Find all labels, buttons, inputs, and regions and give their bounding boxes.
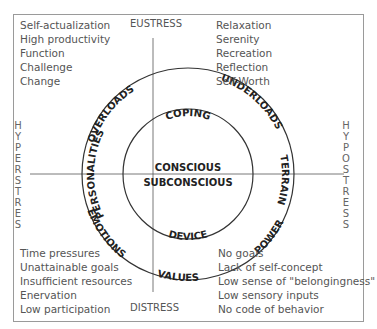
list-item: No goals bbox=[218, 246, 375, 260]
center-subconscious: SUBCONSCIOUS bbox=[143, 177, 232, 188]
list-item: Lack of self-concept bbox=[218, 260, 375, 274]
list-item: Reflection bbox=[216, 60, 272, 74]
axis-distress: DISTRESS bbox=[130, 302, 179, 313]
list-item: Self-Worth bbox=[216, 74, 272, 88]
list-bottom-right: No goals Lack of self-concept Low sense … bbox=[218, 246, 375, 316]
list-top-right: Relaxation Serenity Recreation Reflectio… bbox=[216, 18, 272, 88]
ring-coping: COPING bbox=[164, 107, 212, 122]
list-item: Function bbox=[20, 46, 110, 60]
list-item: Low sensory inputs bbox=[218, 288, 375, 302]
ring-terrain: TERRAIN bbox=[275, 154, 291, 206]
axis-hypostress: HYPOSTRESS bbox=[340, 120, 352, 230]
list-item: No code of behavior bbox=[218, 302, 375, 316]
axis-hyperstress: HYPERSTRES bbox=[12, 120, 24, 230]
list-top-left: Self-actualization High productivity Fun… bbox=[20, 18, 110, 88]
list-item: Low participation bbox=[20, 302, 132, 316]
list-item: Change bbox=[20, 74, 110, 88]
ring-device: DEVICE bbox=[167, 228, 208, 242]
list-item: Self-actualization bbox=[20, 18, 110, 32]
list-item: Low sense of "belongingness" bbox=[218, 274, 375, 288]
list-item: Recreation bbox=[216, 46, 272, 60]
ring-values: VALUES bbox=[156, 268, 199, 283]
list-item: Enervation bbox=[20, 288, 132, 302]
list-item: Insufficient resources bbox=[20, 274, 132, 288]
list-item: High productivity bbox=[20, 32, 110, 46]
center-conscious: CONSCIOUS bbox=[155, 162, 221, 173]
list-item: Serenity bbox=[216, 32, 272, 46]
axis-eustress: EUSTRESS bbox=[130, 18, 182, 29]
list-item: Time pressures bbox=[20, 246, 132, 260]
list-item: Relaxation bbox=[216, 18, 272, 32]
list-item: Unattainable goals bbox=[20, 260, 132, 274]
list-item: Challenge bbox=[20, 60, 110, 74]
list-bottom-left: Time pressures Unattainable goals Insuff… bbox=[20, 246, 132, 316]
